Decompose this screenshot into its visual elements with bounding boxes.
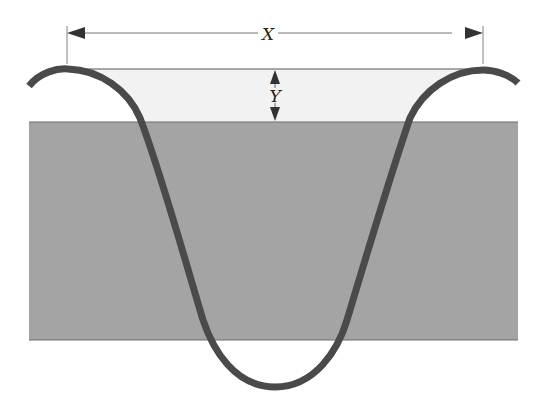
arrow-right-icon	[465, 27, 483, 39]
dimension-x	[67, 26, 483, 64]
label-x: X	[260, 24, 275, 44]
substrate-band	[29, 122, 518, 340]
arrow-left-icon	[67, 27, 85, 39]
diagram-canvas: X Y	[0, 0, 538, 416]
label-y: Y	[269, 86, 282, 106]
